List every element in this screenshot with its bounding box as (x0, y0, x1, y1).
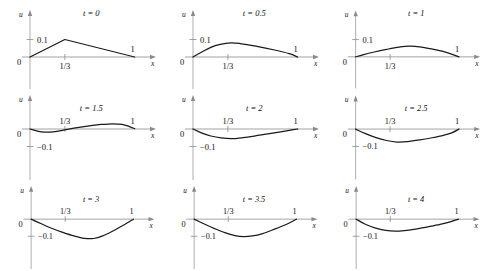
x-tick-label-third: 1/3 (222, 61, 233, 71)
x-tick-label-one: 1 (455, 117, 459, 126)
u-axis-arrow (28, 95, 32, 101)
plot-panel: xu−0.101/31t = 2.5 (326, 91, 487, 182)
u-axis-label: u (345, 186, 349, 195)
data-curve (356, 129, 459, 142)
x-tick-label-one: 1 (131, 44, 135, 54)
x-tick-label-third: 1/3 (385, 207, 396, 216)
plot-svg-3: xu−0.101/31t = 1.5 (0, 91, 163, 182)
u-tick-label: 0.1 (200, 35, 211, 45)
origin-label: 0 (17, 129, 21, 139)
x-axis-label: x (474, 59, 479, 68)
data-curve (193, 129, 298, 139)
x-tick-label-third: 1/3 (385, 117, 396, 126)
x-axis-label: x (148, 221, 153, 230)
x-axis-label: x (311, 221, 316, 230)
plot-panel: xu0.101/31t = 0 (0, 0, 163, 91)
u-tick-label: −0.1 (37, 142, 52, 152)
u-axis-arrow (354, 186, 358, 192)
x-axis-label: x (313, 131, 318, 140)
u-axis-arrow (191, 95, 195, 101)
panel-time-label: t = 1 (408, 9, 424, 18)
plot-svg-5: xu−0.101/31t = 2.5 (326, 91, 487, 182)
x-tick-label-one: 1 (129, 207, 133, 216)
u-axis-arrow (28, 10, 32, 16)
plot-svg-4: xu−0.101/31t = 2 (163, 91, 326, 182)
u-axis-label: u (182, 10, 186, 19)
u-axis-arrow (353, 96, 357, 102)
panel-time-label: t = 0 (83, 8, 100, 18)
plot-panel: xu0.101/31t = 0.5 (163, 0, 326, 91)
u-axis-label: u (20, 186, 24, 195)
plot-panel: xu0.101/31t = 1 (326, 0, 487, 91)
u-axis-label: u (182, 95, 186, 104)
x-tick-label-third: 1/3 (385, 62, 396, 71)
x-tick-label-one: 1 (455, 45, 459, 54)
x-axis-label: x (150, 131, 155, 140)
x-tick-label-third: 1/3 (222, 116, 233, 126)
u-tick-label: −0.1 (200, 142, 215, 152)
plot-svg-2: xu0.101/31t = 1 (326, 0, 487, 91)
plot-panel: xu−0.101/31t = 2 (163, 91, 326, 182)
u-axis-label: u (345, 95, 349, 104)
u-axis-arrow (29, 186, 33, 192)
u-axis-arrow (353, 10, 357, 16)
data-curve (30, 124, 135, 132)
u-tick-label: −0.1 (201, 232, 216, 241)
panel-time-label: t = 0.5 (243, 8, 266, 18)
origin-label: 0 (17, 57, 21, 67)
origin-label: 0 (343, 220, 347, 229)
u-tick-label: 0.1 (363, 36, 373, 45)
u-axis-label: u (19, 95, 23, 104)
x-tick-label-one: 1 (131, 116, 135, 126)
u-axis-arrow (192, 186, 196, 192)
x-axis-label: x (313, 59, 318, 68)
plot-svg-8: xu−0.101/31t = 4 (326, 182, 487, 271)
plot-panel: xu−0.101/31t = 3 (0, 182, 163, 271)
u-axis-label: u (345, 10, 349, 19)
x-tick-label-one: 1 (294, 116, 298, 126)
x-axis-label: x (473, 221, 478, 230)
u-tick-label: −0.1 (363, 142, 378, 151)
origin-label: 0 (343, 130, 347, 139)
x-axis-label: x (150, 59, 155, 68)
x-tick-label-third: 1/3 (59, 116, 70, 126)
panel-time-label: t = 2.5 (405, 104, 428, 113)
origin-label: 0 (181, 220, 185, 229)
x-tick-label-third: 1/3 (60, 207, 71, 216)
x-tick-label-one: 1 (454, 207, 458, 216)
u-tick-label: −0.1 (363, 232, 378, 241)
origin-label: 0 (180, 129, 184, 139)
x-tick-label-third: 1/3 (223, 207, 234, 216)
u-tick-label: 0.1 (37, 35, 48, 45)
u-tick-label: −0.1 (38, 232, 53, 241)
origin-label: 0 (343, 58, 347, 67)
plot-panel: xu−0.101/31t = 1.5 (0, 91, 163, 182)
x-tick-label-one: 1 (294, 44, 298, 54)
x-axis-label: x (474, 131, 479, 140)
origin-label: 0 (18, 220, 22, 229)
panel-time-label: t = 2 (246, 103, 263, 113)
origin-label: 0 (180, 57, 184, 67)
panel-time-label: t = 4 (408, 195, 424, 204)
plot-svg-0: xu0.101/31t = 0 (0, 0, 163, 91)
plot-panel: xu−0.101/31t = 4 (326, 182, 487, 271)
plot-grid: xu0.101/31t = 0xu0.101/31t = 0.5xu0.101/… (0, 0, 487, 271)
plot-svg-1: xu0.101/31t = 0.5 (163, 0, 326, 91)
data-curve (356, 219, 458, 231)
plot-svg-7: xu−0.101/31t = 3.5 (163, 182, 326, 271)
x-tick-label-third: 1/3 (59, 61, 70, 71)
data-curve (193, 43, 298, 57)
u-axis-arrow (191, 10, 195, 16)
u-axis-label: u (19, 10, 23, 19)
panel-time-label: t = 3 (83, 195, 99, 204)
x-tick-label-one: 1 (292, 207, 296, 216)
plot-panel: xu−0.101/31t = 3.5 (163, 182, 326, 271)
panel-time-label: t = 1.5 (80, 103, 103, 113)
plot-svg-6: xu−0.101/31t = 3 (0, 182, 163, 271)
panel-time-label: t = 3.5 (243, 195, 265, 204)
u-axis-label: u (183, 186, 187, 195)
data-curve (356, 46, 459, 57)
